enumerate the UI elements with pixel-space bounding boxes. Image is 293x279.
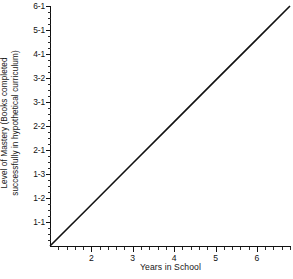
y-tick-label: 2-1 — [33, 146, 45, 155]
x-tick-minor — [83, 247, 84, 250]
x-tick-minor — [67, 247, 68, 250]
x-tick-minor — [158, 247, 159, 250]
x-tick-major — [133, 247, 134, 252]
x-tick-minor — [149, 247, 150, 250]
series-line-mastery — [50, 6, 291, 247]
x-tick-minor — [265, 247, 266, 250]
x-tick-major — [216, 247, 217, 252]
y-axis-title-text: Level of Mastery (Books completed succes… — [0, 0, 21, 246]
x-tick-major — [174, 247, 175, 252]
x-tick-minor — [124, 247, 125, 250]
x-tick-minor — [249, 247, 250, 250]
y-tick-label: 3-1 — [33, 98, 45, 107]
y-tick-label: 1-2 — [33, 194, 45, 203]
x-tick-minor — [100, 247, 101, 250]
x-tick-minor — [240, 247, 241, 250]
y-tick-label: 5-1 — [33, 26, 45, 35]
x-tick-minor — [166, 247, 167, 250]
y-tick-label: 6-1 — [33, 2, 45, 11]
x-tick-minor — [108, 247, 109, 250]
chart-figure: Level of Mastery (Books completed succes… — [0, 0, 293, 279]
x-tick-minor — [199, 247, 200, 250]
x-tick-major — [91, 247, 92, 252]
x-tick-minor — [290, 247, 291, 250]
plot-area: 1-11-21-32-12-23-13-24-15-16-1 23456 — [50, 6, 290, 246]
y-tick-label: 1-3 — [33, 170, 45, 179]
x-tick-minor — [191, 247, 192, 250]
x-tick-minor — [207, 247, 208, 250]
x-tick-minor — [116, 247, 117, 250]
x-tick-minor — [232, 247, 233, 250]
x-tick-minor — [273, 247, 274, 250]
x-tick-minor — [224, 247, 225, 250]
x-tick-minor — [282, 247, 283, 250]
x-tick-minor — [75, 247, 76, 250]
x-tick-minor — [141, 247, 142, 250]
y-tick-label: 1-1 — [33, 218, 45, 227]
x-tick-minor — [58, 247, 59, 250]
x-axis-title: Years in School — [50, 262, 291, 272]
y-tick-label: 2-2 — [33, 122, 45, 131]
x-tick-major — [257, 247, 258, 252]
y-axis-title: Level of Mastery (Books completed succes… — [0, 0, 28, 250]
y-tick-label: 4-1 — [33, 50, 45, 59]
x-tick-minor — [182, 247, 183, 250]
y-tick-label: 3-2 — [33, 74, 45, 83]
